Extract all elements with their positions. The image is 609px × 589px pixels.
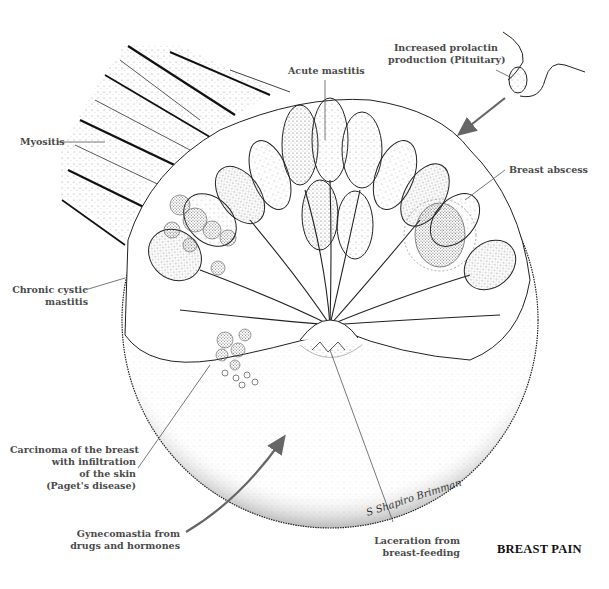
label-line: Carcinoma of the breast <box>10 444 136 456</box>
label-line: drugs and hormones <box>60 540 180 552</box>
anatomical-drawing <box>0 0 609 589</box>
label-line: mastitis <box>10 296 88 308</box>
label-line: Chronic cystic <box>10 284 88 296</box>
pituitary-icon <box>503 32 585 97</box>
label-line: breast-feeding <box>372 547 460 559</box>
label-line: with infiltration <box>10 456 136 468</box>
label-line: Increased prolactin <box>388 42 498 54</box>
label-line: Acute mastitis <box>288 65 365 77</box>
label-breast-abscess: Breast abscess <box>509 164 588 176</box>
label-line: (Paget's disease) <box>10 480 136 492</box>
label-line: production (Pituitary) <box>388 54 498 66</box>
label-line: Breast abscess <box>509 164 588 176</box>
label-line: Gynecomastia from <box>60 528 180 540</box>
label-gynecomastia: Gynecomastia from drugs and hormones <box>60 528 180 552</box>
label-laceration: Laceration from breast-feeding <box>372 535 460 559</box>
label-myositis: Myositis <box>20 136 65 148</box>
label-prolactin: Increased prolactin production (Pituitar… <box>388 42 498 66</box>
label-line: Myositis <box>20 136 65 148</box>
label-chronic-cystic-mastitis: Chronic cystic mastitis <box>10 284 88 308</box>
label-line: of the skin <box>10 468 136 480</box>
breast-pain-illustration: Increased prolactin production (Pituitar… <box>0 0 609 589</box>
label-carcinoma: Carcinoma of the breast with infiltratio… <box>10 444 136 492</box>
figure-title: BREAST PAIN <box>497 542 582 557</box>
label-acute-mastitis: Acute mastitis <box>288 65 365 77</box>
label-line: Laceration from <box>372 535 460 547</box>
